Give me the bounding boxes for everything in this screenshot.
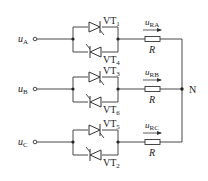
vt1-label: VT — [103, 15, 116, 26]
resistor-a-label: R — [148, 44, 155, 55]
neutral-label: N — [189, 84, 196, 95]
svg-text:uB: uB — [18, 83, 28, 96]
vt4-sub: 4 — [116, 59, 120, 67]
svg-text:uC: uC — [18, 136, 28, 149]
vt4-label: VT — [103, 54, 116, 65]
vt5-sub: 5 — [116, 123, 120, 131]
urb-sub: RB — [150, 71, 160, 79]
vt3-label: VT — [103, 65, 116, 76]
svg-text:VT5: VT5 — [103, 118, 120, 131]
resistor-b-label: R — [148, 94, 155, 105]
neutral-node — [180, 87, 183, 90]
input-sub-a: A — [23, 38, 28, 46]
circuit-diagram: uA VT1 VT4 uRA R uB VT3 VT6 uRB R uC VT5… — [0, 0, 208, 181]
svg-text:uRB: uRB — [145, 67, 159, 79]
vt1-sub: 1 — [116, 20, 120, 28]
vt2-sub: 2 — [116, 162, 120, 170]
svg-text:VT6: VT6 — [103, 104, 120, 117]
terminal-a — [33, 37, 37, 41]
vt6-sub: 6 — [116, 109, 120, 117]
resistor-c — [145, 140, 160, 145]
vt5-label: VT — [103, 118, 116, 129]
svg-text:uRA: uRA — [145, 17, 159, 29]
vt2-label: VT — [103, 157, 116, 168]
ura-sub: RA — [150, 21, 160, 29]
resistor-c-label: R — [148, 147, 155, 158]
urc-sub: RC — [150, 124, 160, 132]
svg-text:VT2: VT2 — [103, 157, 120, 170]
terminal-c — [33, 140, 37, 144]
phase-c-branch — [33, 124, 182, 161]
resistor-a — [145, 37, 160, 42]
svg-text:uRC: uRC — [145, 120, 159, 132]
vt3-sub: 3 — [116, 70, 120, 78]
input-sub-b: B — [23, 88, 28, 96]
phase-b-branch — [33, 71, 182, 108]
terminal-b — [33, 87, 37, 91]
vt6-label: VT — [103, 104, 116, 115]
resistor-b — [145, 87, 160, 92]
svg-text:uA: uA — [18, 33, 28, 46]
svg-text:VT1: VT1 — [103, 15, 120, 28]
input-sub-c: C — [23, 141, 28, 149]
phase-a-branch — [33, 21, 182, 58]
